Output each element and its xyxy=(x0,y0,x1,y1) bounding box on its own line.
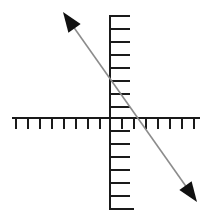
figure-canvas xyxy=(0,0,212,223)
axes-diagram-svg xyxy=(0,0,212,223)
